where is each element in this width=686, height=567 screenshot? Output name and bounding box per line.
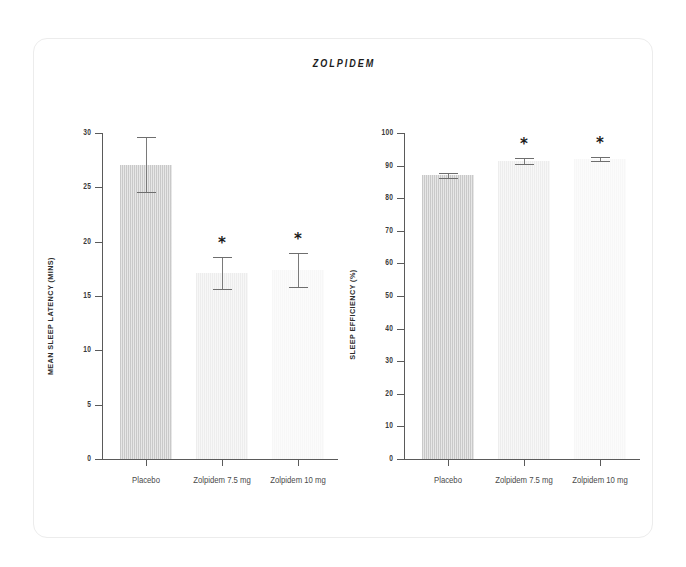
y-axis-tick-label: 70 — [385, 225, 393, 235]
bar-fill — [422, 175, 474, 459]
y-axis-tick-label: 20 — [385, 388, 393, 398]
x-axis-tick-mark — [448, 459, 449, 466]
y-axis-tick-mark — [397, 459, 404, 460]
y-axis-tick-label: 80 — [385, 192, 393, 202]
x-axis-tick-label: Zolpidem 10 mg — [553, 475, 648, 485]
y-axis-tick-label: 20 — [83, 236, 91, 246]
y-axis-tick-label: 90 — [385, 160, 393, 170]
chart-sleep-efficiency: SLEEP EFFICIENCY (%) ** 0102030405060708… — [346, 95, 646, 515]
bar-fill — [498, 161, 550, 459]
y-axis-tick-label: 25 — [83, 181, 91, 191]
significance-asterisk: * — [216, 237, 228, 249]
error-bar — [146, 137, 147, 191]
significance-asterisk: * — [594, 137, 606, 149]
y-axis-tick-label: 0 — [87, 453, 91, 463]
y-axis-tick-mark — [397, 263, 404, 264]
error-bar-cap-top — [515, 158, 534, 159]
figure-panel: ZOLPIDEM MEAN SLEEP LATENCY (MINS) ** 05… — [33, 38, 653, 538]
y-axis-tick-label: 30 — [385, 355, 393, 365]
bar-fill — [120, 165, 172, 459]
chart-mean-sleep-latency: MEAN SLEEP LATENCY (MINS) ** 05101520253… — [44, 95, 344, 515]
y-axis-tick-mark — [397, 133, 404, 134]
bar — [574, 159, 626, 459]
bar-fill — [272, 270, 324, 459]
y-axis-tick-mark — [397, 296, 404, 297]
error-bar-cap-top — [591, 157, 610, 158]
y-axis-tick-label: 0 — [389, 453, 393, 463]
significance-asterisk: * — [292, 233, 304, 245]
y-axis-tick-mark — [397, 198, 404, 199]
y-axis-tick-mark — [397, 426, 404, 427]
y-axis-tick-mark — [397, 231, 404, 232]
y-axis-tick-label: 50 — [385, 290, 393, 300]
y-axis-tick-mark — [95, 187, 102, 188]
error-bar-cap-top — [289, 253, 308, 254]
x-axis-tick-mark — [524, 459, 525, 466]
x-axis-line-right — [404, 459, 640, 460]
error-bar-cap-bottom — [289, 287, 308, 288]
y-axis-title-left: MEAN SLEEP LATENCY (MINS) — [46, 257, 55, 375]
bar-fill — [574, 159, 626, 459]
y-axis-tick-mark — [95, 133, 102, 134]
error-bar-cap-top — [213, 257, 232, 258]
y-axis-tick-label: 10 — [385, 420, 393, 430]
y-axis-tick-label: 15 — [83, 290, 91, 300]
bar — [422, 175, 474, 459]
error-bar-cap-top — [439, 173, 458, 174]
y-axis-tick-mark — [397, 329, 404, 330]
x-axis-tick-mark — [222, 459, 223, 466]
y-axis-tick-label: 40 — [385, 323, 393, 333]
y-axis-tick-mark — [95, 459, 102, 460]
error-bar-cap-bottom — [439, 178, 458, 179]
bar — [498, 161, 550, 459]
y-axis-tick-mark — [397, 361, 404, 362]
error-bar-cap-bottom — [213, 289, 232, 290]
x-axis-tick-label: Zolpidem 10 mg — [251, 475, 346, 485]
x-axis-tick-mark — [298, 459, 299, 466]
bar-fill — [196, 273, 248, 459]
error-bar-cap-bottom — [591, 161, 610, 162]
bar — [272, 270, 324, 459]
figure-title: ZOLPIDEM — [90, 57, 598, 69]
y-axis-tick-label: 100 — [381, 127, 393, 137]
y-axis-tick-mark — [397, 394, 404, 395]
y-axis-tick-label: 30 — [83, 127, 91, 137]
y-axis-tick-mark — [95, 405, 102, 406]
bar — [120, 165, 172, 459]
error-bar — [222, 257, 223, 290]
x-axis-line-left — [102, 459, 338, 460]
error-bar-cap-bottom — [137, 192, 156, 193]
y-axis-tick-label: 60 — [385, 257, 393, 267]
error-bar-cap-top — [137, 137, 156, 138]
plot-area-left: ** — [102, 133, 330, 459]
bar — [196, 273, 248, 459]
y-axis-tick-mark — [95, 296, 102, 297]
y-axis-title-right: SLEEP EFFICIENCY (%) — [348, 269, 357, 359]
y-axis-tick-label: 10 — [83, 344, 91, 354]
y-axis-tick-mark — [95, 242, 102, 243]
significance-asterisk: * — [518, 138, 530, 150]
y-axis-tick-mark — [95, 350, 102, 351]
error-bar-cap-bottom — [515, 164, 534, 165]
y-axis-tick-label: 5 — [87, 399, 91, 409]
x-axis-tick-mark — [600, 459, 601, 466]
error-bar — [298, 253, 299, 288]
plot-area-right: ** — [404, 133, 632, 459]
y-axis-tick-mark — [397, 166, 404, 167]
x-axis-tick-mark — [146, 459, 147, 466]
